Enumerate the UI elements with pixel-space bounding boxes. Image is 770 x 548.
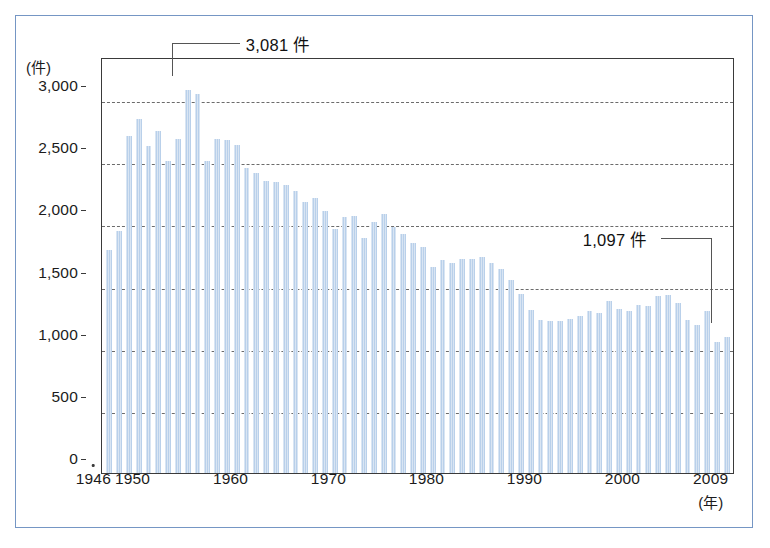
bar-1948 [126, 136, 132, 473]
bar-1979 [430, 267, 436, 473]
y-axis-unit-label: (件) [26, 56, 51, 77]
bar-1975 [391, 227, 397, 473]
bar-1977 [410, 243, 416, 473]
bar-1982 [459, 259, 465, 473]
bar-1986 [498, 269, 504, 473]
bar-1968 [322, 211, 328, 473]
bar-1972 [361, 238, 367, 473]
bar-1970 [342, 217, 348, 473]
bar-1957 [214, 139, 220, 473]
y-tick-1000 [81, 335, 86, 336]
bar-1981 [449, 263, 455, 473]
bar-1949 [136, 119, 142, 473]
y-tick-label-1500: 1,500 [16, 264, 78, 282]
peak-annotation-leader-vertical [172, 43, 173, 76]
bar-1976 [400, 234, 406, 473]
x-axis-unit-label: (年) [698, 491, 723, 512]
bar-1991 [547, 321, 553, 473]
chart-frame: (件) 05001,0001,5002,0002,5003,000 194619… [15, 15, 753, 528]
x-tick-1946 [92, 464, 95, 467]
y-tick-label-3000: 3,000 [16, 77, 78, 95]
bar-1955 [195, 94, 201, 473]
bar-1985 [489, 263, 495, 473]
bar-2006 [694, 325, 700, 473]
bar-1954 [185, 90, 191, 473]
last-annotation-label: 1,097 件 [583, 227, 648, 251]
last-annotation-leader-vertical [711, 238, 712, 323]
bar-1953 [175, 139, 181, 473]
bar-1996 [596, 313, 602, 473]
bar-1946 [106, 250, 112, 473]
y-tick-label-0: 0 [16, 450, 78, 468]
bar-1983 [469, 259, 475, 473]
bar-1958 [224, 140, 230, 473]
bar-1989 [528, 310, 534, 473]
y-tick-label-500: 500 [16, 388, 78, 406]
bar-2000 [636, 305, 642, 473]
bar-2004 [675, 303, 681, 473]
bar-1950 [146, 146, 152, 473]
y-tick-2500 [81, 148, 86, 149]
bar-1960 [244, 168, 250, 473]
bar-1964 [283, 185, 289, 473]
peak-annotation-label: 3,081 件 [246, 32, 311, 56]
last-annotation-leader-horizontal [661, 238, 711, 239]
bar-1974 [381, 214, 387, 473]
peak-annotation-leader-horizontal [172, 43, 240, 44]
bar-1969 [332, 229, 338, 473]
y-tick-1500 [81, 273, 86, 274]
y-tick-label-2500: 2,500 [16, 139, 78, 157]
bar-1966 [302, 202, 308, 473]
bar-2009 [724, 337, 730, 473]
bar-1952 [165, 161, 171, 473]
y-tick-3000 [81, 86, 86, 87]
bar-1956 [204, 161, 210, 473]
bar-series [102, 59, 733, 473]
bar-1978 [420, 247, 426, 473]
bar-1988 [518, 294, 524, 473]
bar-2008 [714, 342, 720, 473]
bar-2003 [665, 295, 671, 473]
bar-1984 [479, 257, 485, 473]
bar-2001 [645, 306, 651, 473]
bar-1965 [293, 191, 299, 473]
plot-area [101, 58, 734, 474]
bar-1994 [577, 316, 583, 473]
bar-1959 [234, 145, 240, 473]
bar-2005 [685, 320, 691, 473]
bar-1963 [273, 182, 279, 473]
bar-1992 [557, 321, 563, 473]
bar-1993 [567, 319, 573, 473]
bar-1961 [253, 173, 259, 473]
bar-1987 [508, 280, 514, 473]
bar-2007 [704, 311, 710, 473]
bar-1990 [538, 320, 544, 473]
bar-1951 [155, 131, 161, 473]
y-tick-label-1000: 1,000 [16, 326, 78, 344]
bar-1998 [616, 309, 622, 473]
bar-1967 [312, 198, 318, 473]
bar-1971 [351, 216, 357, 473]
y-tick-0 [81, 459, 86, 460]
bar-1995 [587, 311, 593, 473]
y-tick-500 [81, 397, 86, 398]
bar-1947 [116, 231, 122, 473]
y-tick-label-2000: 2,000 [16, 201, 78, 219]
bar-1997 [606, 301, 612, 473]
bar-2002 [655, 296, 661, 473]
bar-1999 [626, 311, 632, 473]
bar-1962 [263, 181, 269, 473]
bar-1980 [440, 260, 446, 473]
bar-1973 [371, 222, 377, 473]
y-tick-2000 [81, 210, 86, 211]
